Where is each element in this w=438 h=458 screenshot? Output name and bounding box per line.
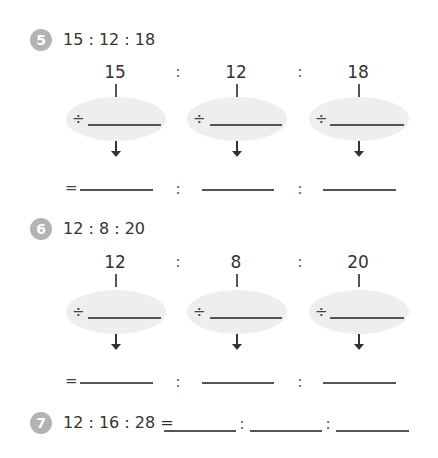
ratio-separator: : [173, 62, 183, 82]
answer-blank[interactable] [202, 382, 274, 384]
connector-line [236, 84, 238, 97]
arrow-down-icon [354, 151, 364, 157]
ratio-value-2: 8 [211, 252, 261, 272]
ratio-separator: : [295, 372, 305, 392]
connector-line [358, 84, 360, 97]
divide-icon: ÷ [315, 111, 328, 127]
problem-title: 12 : 8 : 20 [63, 219, 145, 239]
divisor-blank[interactable] [210, 124, 282, 126]
arrow-down-icon [232, 151, 242, 157]
divisor-blank[interactable] [88, 124, 161, 126]
equals-sign: = [65, 373, 78, 389]
answer-blank[interactable] [323, 189, 396, 191]
ratio-value-3: 20 [333, 252, 383, 272]
ratio-separator: : [295, 62, 305, 82]
divide-icon: ÷ [72, 304, 85, 320]
ratio-value-2: 12 [211, 62, 261, 82]
ratio-separator: : [295, 252, 305, 272]
answer-blank[interactable] [250, 430, 322, 432]
divisor-blank[interactable] [210, 317, 282, 319]
arrow-down-icon [111, 151, 121, 157]
ratio-value-1: 15 [90, 62, 140, 82]
divide-icon: ÷ [193, 304, 206, 320]
answer-blank[interactable] [164, 430, 236, 432]
arrow-down-icon [354, 344, 364, 350]
divisor-blank[interactable] [88, 317, 161, 319]
ratio-separator: : [237, 414, 247, 434]
equals-sign: = [65, 180, 78, 196]
ratio-value-1: 12 [90, 252, 140, 272]
arrow-down-icon [232, 344, 242, 350]
problem-title: 12 : 16 : 28 = [63, 413, 174, 433]
problem-title: 15 : 12 : 18 [63, 30, 155, 50]
ratio-value-3: 18 [333, 62, 383, 82]
divide-icon: ÷ [72, 111, 85, 127]
answer-blank[interactable] [323, 382, 396, 384]
divide-icon: ÷ [193, 111, 206, 127]
divide-icon: ÷ [315, 304, 328, 320]
answer-blank[interactable] [80, 382, 153, 384]
answer-blank[interactable] [202, 189, 274, 191]
connector-line [358, 274, 360, 287]
problem-number-badge: 5 [30, 29, 52, 51]
ratio-separator: : [173, 252, 183, 272]
arrow-down-icon [111, 344, 121, 350]
connector-line [236, 274, 238, 287]
ratio-separator: : [173, 179, 183, 199]
ratio-separator: : [173, 372, 183, 392]
divisor-blank[interactable] [330, 124, 404, 126]
ratio-separator: : [295, 179, 305, 199]
ratio-separator: : [323, 414, 333, 434]
problem-number-badge: 6 [30, 218, 52, 240]
answer-blank[interactable] [336, 430, 409, 432]
divisor-blank[interactable] [330, 317, 404, 319]
answer-blank[interactable] [80, 189, 153, 191]
problem-number-badge: 7 [30, 412, 52, 434]
connector-line [115, 274, 117, 287]
connector-line [115, 84, 117, 97]
